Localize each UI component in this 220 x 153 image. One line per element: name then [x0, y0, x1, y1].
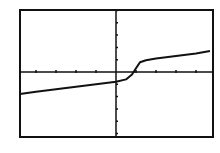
calculator-graph [0, 0, 220, 153]
axes [20, 10, 213, 137]
